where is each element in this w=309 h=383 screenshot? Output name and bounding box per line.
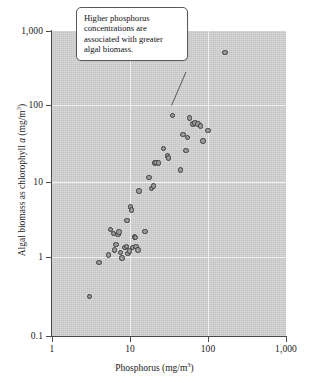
y-tick-100 xyxy=(46,105,52,106)
data-point xyxy=(178,167,183,172)
x-ticklabel-10: 10 xyxy=(110,344,150,354)
data-point xyxy=(200,138,205,143)
gridline-y-100 xyxy=(52,105,286,106)
y-ticklabel-0.1: 0.1 xyxy=(31,331,43,341)
data-point xyxy=(166,155,171,160)
data-point xyxy=(129,207,134,212)
data-point xyxy=(106,252,111,257)
data-point xyxy=(146,175,151,180)
gridline-x-10 xyxy=(130,31,131,336)
x-ticklabel-100: 100 xyxy=(188,344,228,354)
data-point xyxy=(156,160,161,165)
data-point xyxy=(124,218,129,223)
y-axis-line xyxy=(51,30,52,337)
y-ticklabel-100: 100 xyxy=(28,100,43,110)
data-point xyxy=(119,255,124,260)
y-tick-1000 xyxy=(46,31,52,32)
x-axis-line xyxy=(51,336,287,337)
y-ticklabel-10: 10 xyxy=(33,177,43,187)
x-tick-100 xyxy=(208,336,209,342)
data-point xyxy=(198,123,203,128)
data-point xyxy=(187,115,192,120)
x-axis-label: Phosphorus (mg/m3) xyxy=(0,361,309,373)
y-tick-10 xyxy=(46,182,52,183)
gridline-y-10 xyxy=(52,182,286,183)
annotation-callout: Higher phosphorus concentrations are ass… xyxy=(76,7,188,61)
data-point xyxy=(113,242,118,247)
data-point xyxy=(135,247,140,252)
y-axis-label: Algal biomass as chlorophyll a (mg/m3) xyxy=(15,20,27,340)
data-point xyxy=(205,128,210,133)
data-point xyxy=(112,247,117,252)
scatter-plot-figure: 1,000 100 10 1 0.1 1 10 100 1,000 Phosph… xyxy=(0,0,309,383)
data-point xyxy=(96,260,101,265)
x-tick-1000 xyxy=(286,336,287,342)
data-point xyxy=(116,229,121,234)
gridline-x-100 xyxy=(208,31,209,336)
data-point xyxy=(151,183,156,188)
data-point xyxy=(142,229,147,234)
gridline-y-1 xyxy=(52,257,286,258)
data-point xyxy=(183,148,188,153)
y-ticklabel-1: 1 xyxy=(38,252,43,262)
x-tick-1 xyxy=(52,336,53,342)
y-tick-1 xyxy=(46,257,52,258)
x-ticklabel-1000: 1,000 xyxy=(266,344,306,354)
data-point xyxy=(136,188,141,193)
plot-area xyxy=(52,31,286,336)
x-tick-10 xyxy=(130,336,131,342)
x-ticklabel-1: 1 xyxy=(32,344,72,354)
data-point xyxy=(87,294,92,299)
data-point xyxy=(222,50,227,55)
